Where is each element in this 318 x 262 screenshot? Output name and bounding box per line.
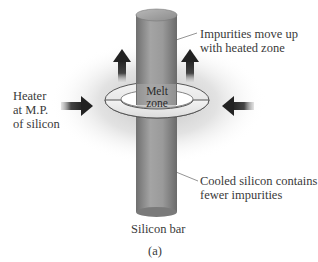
impurities-label: Impurities move up with heated zone xyxy=(200,27,298,55)
heater-label-line1: Heater xyxy=(13,89,60,103)
cooled-label-line1: Cooled silicon contains xyxy=(200,174,317,188)
silicon-bar-bottom xyxy=(136,207,177,217)
melt-zone-label: Melt zone xyxy=(139,85,175,109)
leader-line-impurities xyxy=(176,33,197,40)
melt-zone-line2: zone xyxy=(139,97,175,109)
impurities-label-line2: with heated zone xyxy=(200,41,298,55)
cooled-label-line2: fewer impurities xyxy=(200,188,317,202)
melt-zone-line1: Melt xyxy=(139,85,175,97)
heater-label-line2: at M.P. xyxy=(13,103,60,117)
silicon-bar-top xyxy=(136,9,177,21)
silicon-bar-label: Silicon bar xyxy=(131,222,186,236)
panel-label: (a) xyxy=(148,244,162,258)
heater-label: Heater at M.P. of silicon xyxy=(13,89,60,131)
impurities-label-line1: Impurities move up xyxy=(200,27,298,41)
cooled-label: Cooled silicon contains fewer impurities xyxy=(200,174,317,202)
leader-line-cooled xyxy=(176,172,198,181)
heater-label-line3: of silicon xyxy=(13,117,60,131)
